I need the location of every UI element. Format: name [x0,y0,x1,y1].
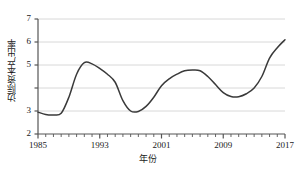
x-minor-ticks [38,134,285,139]
data-series-line [38,40,285,115]
y-tick-label: 5 [17,59,31,69]
x-tick-label: 1993 [80,140,120,150]
x-tick-label: 2001 [142,140,182,150]
chart-figure: 边际资本产出率 23567 19851993200120092017 年份 [0,0,296,178]
x-tick-label: 1985 [18,140,58,150]
y-tick-label: 3 [17,105,31,115]
y-tick-label: 6 [17,36,31,46]
x-axis-title: 年份 [0,152,296,165]
x-tick-label: 2009 [203,140,243,150]
y-tick-label: 7 [17,13,31,23]
gridlines [38,19,285,111]
x-tick-label: 2017 [265,140,296,150]
y-tick-label: 2 [17,128,31,138]
